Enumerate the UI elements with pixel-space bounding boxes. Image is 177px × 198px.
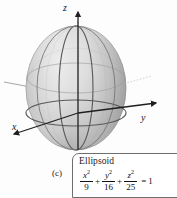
ellipsoid-surface bbox=[26, 26, 126, 150]
equals-sign: = bbox=[141, 176, 146, 186]
equation-expression: x2 9 + y2 16 + z2 25 = 1 bbox=[79, 169, 177, 192]
plus-operator-1: + bbox=[95, 176, 100, 186]
right-hand-side: 1 bbox=[148, 176, 153, 186]
equation-callout: Ellipsoid x2 9 + y2 16 + z2 25 = 1 bbox=[72, 153, 177, 198]
term-z-fraction: z2 25 bbox=[124, 169, 137, 192]
term-y-denominator: 16 bbox=[102, 182, 115, 192]
term-z-denominator: 25 bbox=[124, 182, 137, 192]
axis-label-y: y bbox=[141, 112, 145, 123]
term-y-fraction: y2 16 bbox=[102, 169, 115, 192]
equation-title: Ellipsoid bbox=[79, 156, 177, 167]
ellipsoid-figure: z x y (c) Ellipsoid x2 9 + y2 16 + z2 25 bbox=[0, 0, 177, 198]
term-x-denominator: 9 bbox=[82, 182, 91, 192]
axis-label-z: z bbox=[63, 2, 67, 13]
term-x-numerator: x2 bbox=[81, 169, 92, 181]
plus-operator-2: + bbox=[117, 176, 122, 186]
term-z-numerator: z2 bbox=[125, 169, 136, 181]
term-y-numerator: y2 bbox=[103, 169, 114, 181]
term-x-fraction: x2 9 bbox=[80, 169, 93, 192]
panel-index-label: (c) bbox=[52, 168, 62, 178]
axis-label-x: x bbox=[12, 121, 16, 132]
